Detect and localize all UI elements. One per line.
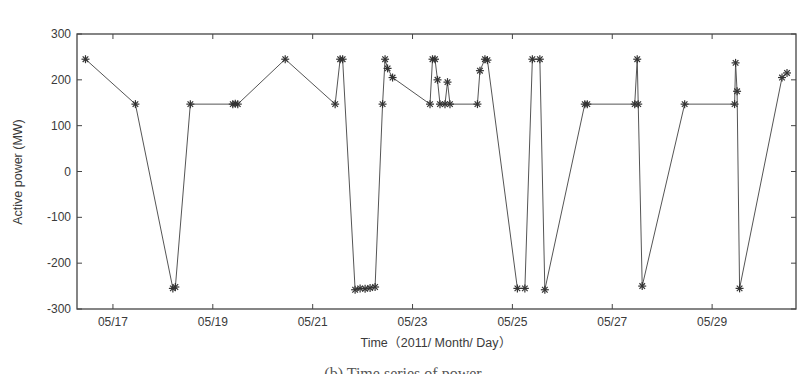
data-series bbox=[81, 55, 791, 294]
x-tick-label: 05/29 bbox=[697, 315, 727, 329]
asterisk-marker-icon bbox=[446, 100, 454, 108]
line-chart: 3002001000-100-200-300 05/1705/1905/2105… bbox=[0, 0, 806, 374]
x-tick-label: 05/17 bbox=[98, 315, 128, 329]
asterisk-marker-icon bbox=[731, 100, 739, 108]
y-tick-label: -100 bbox=[47, 210, 71, 224]
x-axis-label: Time（2011/ Month/ Day） bbox=[360, 336, 511, 350]
asterisk-marker-icon bbox=[339, 55, 347, 63]
y-axis-label: Active power (MW) bbox=[11, 119, 25, 225]
x-tick-label: 05/23 bbox=[398, 315, 428, 329]
asterisk-marker-icon bbox=[186, 100, 194, 108]
figure-caption: (b) Time series of power bbox=[0, 362, 806, 374]
asterisk-marker-icon bbox=[733, 87, 741, 95]
y-tick-label: -200 bbox=[47, 256, 71, 270]
asterisk-marker-icon bbox=[638, 282, 646, 290]
asterisk-marker-icon bbox=[384, 64, 392, 72]
asterisk-marker-icon bbox=[131, 100, 139, 108]
asterisk-marker-icon bbox=[331, 100, 339, 108]
x-tick-label: 05/19 bbox=[198, 315, 228, 329]
asterisk-marker-icon bbox=[426, 100, 434, 108]
asterisk-marker-icon bbox=[583, 100, 591, 108]
x-axis-ticks: 05/1705/1905/2105/2305/2505/2705/29 bbox=[98, 34, 728, 329]
asterisk-marker-icon bbox=[736, 284, 744, 292]
asterisk-marker-icon bbox=[281, 55, 289, 63]
asterisk-marker-icon bbox=[681, 100, 689, 108]
y-tick-label: 300 bbox=[51, 27, 71, 41]
x-tick-label: 05/27 bbox=[597, 315, 627, 329]
y-tick-label: 200 bbox=[51, 73, 71, 87]
y-axis-ticks: 3002001000-100-200-300 bbox=[47, 27, 796, 316]
asterisk-marker-icon bbox=[633, 55, 641, 63]
asterisk-marker-icon bbox=[431, 55, 439, 63]
asterisk-marker-icon bbox=[528, 55, 536, 63]
asterisk-marker-icon bbox=[473, 100, 481, 108]
asterisk-marker-icon bbox=[732, 59, 740, 67]
asterisk-marker-icon bbox=[443, 78, 451, 86]
y-tick-label: 100 bbox=[51, 119, 71, 133]
asterisk-marker-icon bbox=[513, 284, 521, 292]
asterisk-marker-icon bbox=[389, 74, 397, 82]
asterisk-marker-icon bbox=[483, 56, 491, 64]
asterisk-marker-icon bbox=[433, 76, 441, 84]
asterisk-marker-icon bbox=[541, 286, 549, 294]
asterisk-marker-icon bbox=[536, 55, 544, 63]
asterisk-marker-icon bbox=[371, 283, 379, 291]
asterisk-marker-icon bbox=[379, 100, 387, 108]
x-tick-label: 05/21 bbox=[298, 315, 328, 329]
asterisk-marker-icon bbox=[634, 100, 642, 108]
y-tick-label: 0 bbox=[64, 165, 71, 179]
y-tick-label: -300 bbox=[47, 302, 71, 316]
x-tick-label: 05/25 bbox=[497, 315, 527, 329]
asterisk-marker-icon bbox=[521, 284, 529, 292]
series-line bbox=[85, 59, 787, 290]
asterisk-marker-icon bbox=[381, 55, 389, 63]
asterisk-marker-icon bbox=[476, 67, 484, 75]
